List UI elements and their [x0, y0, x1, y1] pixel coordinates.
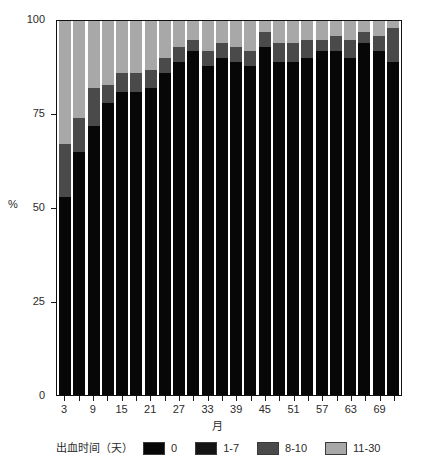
- bar-column[interactable]: [287, 21, 299, 395]
- bar-segment[interactable]: [230, 21, 242, 47]
- bar-segment[interactable]: [173, 62, 185, 395]
- bar-column[interactable]: [173, 21, 185, 395]
- bar-segment[interactable]: [130, 21, 142, 73]
- bar-segment[interactable]: [116, 73, 128, 92]
- bar-segment[interactable]: [387, 62, 399, 395]
- bar-segment[interactable]: [159, 58, 171, 73]
- bar-column[interactable]: [59, 21, 71, 395]
- bar-segment[interactable]: [216, 21, 228, 43]
- bar-segment[interactable]: [316, 40, 328, 51]
- bar-segment[interactable]: [173, 21, 185, 47]
- bar-segment[interactable]: [216, 43, 228, 58]
- bar-column[interactable]: [301, 21, 313, 395]
- bar-column[interactable]: [273, 21, 285, 395]
- bar-segment[interactable]: [88, 21, 100, 88]
- bar-segment[interactable]: [316, 51, 328, 395]
- bar-segment[interactable]: [330, 36, 342, 51]
- bar-segment[interactable]: [287, 21, 299, 43]
- bar-segment[interactable]: [373, 21, 385, 36]
- bar-column[interactable]: [202, 21, 214, 395]
- bar-segment[interactable]: [159, 73, 171, 395]
- bar-column[interactable]: [387, 21, 399, 395]
- bar-segment[interactable]: [330, 21, 342, 36]
- legend-item[interactable]: 0: [143, 442, 177, 455]
- bar-segment[interactable]: [59, 197, 71, 395]
- bar-segment[interactable]: [373, 51, 385, 395]
- bar-segment[interactable]: [273, 43, 285, 62]
- bar-segment[interactable]: [301, 40, 313, 59]
- bar-segment[interactable]: [230, 47, 242, 62]
- bar-column[interactable]: [344, 21, 356, 395]
- bar-column[interactable]: [88, 21, 100, 395]
- bar-segment[interactable]: [59, 21, 71, 144]
- bar-segment[interactable]: [145, 21, 157, 70]
- bar-segment[interactable]: [287, 43, 299, 62]
- bar-segment[interactable]: [344, 58, 356, 395]
- bar-segment[interactable]: [88, 88, 100, 125]
- bar-segment[interactable]: [358, 43, 370, 395]
- bar-segment[interactable]: [187, 40, 199, 51]
- bar-segment[interactable]: [145, 70, 157, 89]
- bar-segment[interactable]: [73, 152, 85, 395]
- bar-segment[interactable]: [202, 51, 214, 66]
- bar-segment[interactable]: [358, 21, 370, 32]
- bar-segment[interactable]: [244, 51, 256, 66]
- bar-segment[interactable]: [287, 62, 299, 395]
- bar-segment[interactable]: [145, 88, 157, 395]
- bar-segment[interactable]: [73, 118, 85, 152]
- legend-item[interactable]: 1-7: [195, 442, 239, 455]
- bar-column[interactable]: [102, 21, 114, 395]
- bar-segment[interactable]: [330, 51, 342, 395]
- bar-column[interactable]: [116, 21, 128, 395]
- bar-segment[interactable]: [387, 28, 399, 62]
- bar-column[interactable]: [187, 21, 199, 395]
- bar-column[interactable]: [130, 21, 142, 395]
- bar-segment[interactable]: [373, 36, 385, 51]
- bar-segment[interactable]: [244, 21, 256, 51]
- legend-item[interactable]: 11-30: [325, 442, 380, 455]
- bar-segment[interactable]: [130, 73, 142, 92]
- bar-column[interactable]: [216, 21, 228, 395]
- bar-segment[interactable]: [116, 21, 128, 73]
- bar-segment[interactable]: [59, 144, 71, 196]
- bar-column[interactable]: [230, 21, 242, 395]
- bar-segment[interactable]: [259, 21, 271, 32]
- bar-segment[interactable]: [230, 62, 242, 395]
- bar-segment[interactable]: [102, 85, 114, 104]
- bar-segment[interactable]: [259, 47, 271, 395]
- bar-segment[interactable]: [273, 62, 285, 395]
- bar-segment[interactable]: [202, 66, 214, 395]
- bar-segment[interactable]: [202, 21, 214, 51]
- bar-segment[interactable]: [344, 21, 356, 40]
- bar-column[interactable]: [259, 21, 271, 395]
- bar-segment[interactable]: [102, 21, 114, 85]
- bar-segment[interactable]: [88, 126, 100, 395]
- bar-column[interactable]: [145, 21, 157, 395]
- bar-segment[interactable]: [316, 21, 328, 40]
- bar-segment[interactable]: [301, 21, 313, 40]
- bar-segment[interactable]: [387, 21, 399, 28]
- bar-segment[interactable]: [187, 51, 199, 395]
- bar-column[interactable]: [73, 21, 85, 395]
- bar-column[interactable]: [330, 21, 342, 395]
- bar-segment[interactable]: [216, 58, 228, 395]
- bar-segment[interactable]: [116, 92, 128, 395]
- bar-segment[interactable]: [73, 21, 85, 118]
- bar-segment[interactable]: [173, 47, 185, 62]
- bar-segment[interactable]: [259, 32, 271, 47]
- bar-segment[interactable]: [244, 66, 256, 395]
- bar-segment[interactable]: [159, 21, 171, 58]
- bar-column[interactable]: [358, 21, 370, 395]
- bar-segment[interactable]: [358, 32, 370, 43]
- bar-column[interactable]: [373, 21, 385, 395]
- bar-segment[interactable]: [301, 58, 313, 395]
- bar-segment[interactable]: [344, 40, 356, 59]
- legend-item[interactable]: 8-10: [257, 442, 307, 455]
- bar-column[interactable]: [316, 21, 328, 395]
- bar-segment[interactable]: [102, 103, 114, 395]
- bar-segment[interactable]: [130, 92, 142, 395]
- bar-column[interactable]: [159, 21, 171, 395]
- bar-segment[interactable]: [273, 21, 285, 43]
- bar-column[interactable]: [244, 21, 256, 395]
- bar-segment[interactable]: [187, 21, 199, 40]
